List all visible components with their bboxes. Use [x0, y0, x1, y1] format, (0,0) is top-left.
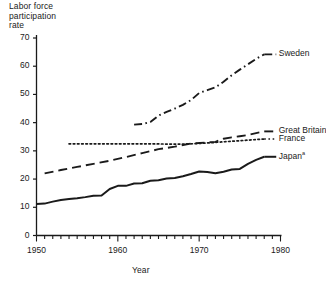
y-tick-label: 50 — [10, 89, 30, 98]
y-tick-label: 0 — [10, 231, 30, 240]
y-tick-label: 30 — [10, 146, 30, 155]
x-tick-label: 1970 — [184, 246, 214, 255]
series-line-sweden — [134, 54, 264, 124]
series-label-japan: Japana — [279, 152, 305, 161]
x-tick-label: 1950 — [22, 246, 52, 255]
series-line-japan — [37, 157, 265, 204]
y-tick-label: 70 — [10, 33, 30, 42]
y-tick-label: 10 — [10, 202, 30, 211]
x-tick-label: 1960 — [103, 246, 133, 255]
data-series — [37, 54, 277, 204]
y-tick-label: 20 — [10, 174, 30, 183]
series-line-great-britain — [45, 131, 265, 173]
series-label-france: France — [279, 134, 305, 143]
series-label-sweden: Sweden — [279, 49, 310, 58]
series-line-france — [69, 139, 264, 144]
y-tick-label: 60 — [10, 61, 30, 70]
x-axis-ticks — [37, 236, 281, 242]
y-tick-label: 40 — [10, 118, 30, 127]
x-tick-label: 1980 — [266, 246, 296, 255]
series-label-footnote-marker: a — [302, 150, 305, 156]
